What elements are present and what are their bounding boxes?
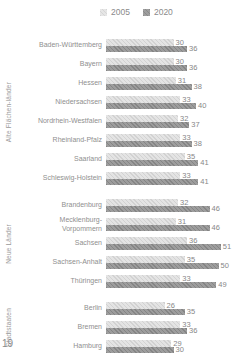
bar-pair: 3138: [106, 77, 202, 90]
bar-2020: [106, 122, 189, 129]
group-rows: Brandenburg3246Mecklenburg- Vorpommern31…: [16, 196, 240, 291]
bar-pair: 3341: [106, 172, 209, 185]
value-label-2020: 51: [223, 243, 231, 251]
bar-line: 51: [106, 244, 231, 251]
bar-pair: 3336: [106, 321, 197, 334]
value-label-2020: 30: [176, 346, 184, 354]
bar-line: 46: [106, 206, 220, 213]
bar-2020: [106, 141, 192, 148]
bar-line: 49: [106, 282, 227, 289]
state-row: Hessen3138: [16, 74, 240, 93]
group-gutter: Alte Flächen-länder: [0, 36, 16, 188]
state-label: Brandenburg: [16, 201, 106, 209]
group-rows: Baden-Württemberg3036Bayern3036Hessen313…: [16, 36, 240, 188]
bar-pair: 3651: [106, 237, 231, 250]
state-row: Sachsen-Anhalt3550: [16, 253, 240, 272]
state-row: Bremen3336: [16, 318, 240, 337]
state-label: Bayern: [16, 60, 106, 68]
bar-pair: 3237: [106, 115, 200, 128]
bar-2020: [106, 46, 187, 53]
value-label-2020: 35: [187, 308, 195, 316]
value-label-2020: 46: [212, 205, 220, 213]
value-label-2020: 41: [200, 159, 208, 167]
state-row: Niedersachsen3340: [16, 93, 240, 112]
state-label: Saarland: [16, 155, 106, 163]
bar-pair: 3036: [106, 39, 197, 52]
value-label-2020: 38: [194, 83, 202, 91]
state-row: Baden-Württemberg3036: [16, 36, 240, 55]
state-label: Sachsen-Anhalt: [16, 258, 106, 266]
group: Alte Flächen-länderBaden-Württemberg3036…: [0, 36, 240, 188]
legend-swatch-2005-icon: [100, 9, 107, 16]
bar-line: 37: [106, 122, 200, 129]
state-row: Rheinland-Pfalz3338: [16, 131, 240, 150]
state-label: Hamburg: [16, 342, 106, 350]
bar-2020: [106, 347, 174, 354]
chart: Alte Flächen-länderBaden-Württemberg3036…: [0, 36, 240, 356]
state-row: Mecklenburg- Vorpommern3146: [16, 215, 240, 234]
bar-pair: 3349: [106, 275, 227, 288]
value-label-2020: 37: [191, 121, 199, 129]
bar-pair: 3550: [106, 256, 229, 269]
state-label: Sachsen: [16, 239, 106, 247]
group-label: Neue Länder: [5, 224, 12, 264]
bar-line: 41: [106, 179, 209, 186]
bar-2020: [106, 225, 210, 232]
bar-2020: [106, 206, 210, 213]
state-label: Rheinland-Pfalz: [16, 136, 106, 144]
bar-2020: [106, 65, 187, 72]
bar-pair: 2635: [106, 302, 195, 315]
bar-pair: 3338: [106, 134, 202, 147]
state-label: Bremen: [16, 323, 106, 331]
state-label: Nordrhein-Westfalen: [16, 117, 106, 125]
state-row: Berlin2635: [16, 299, 240, 318]
value-label-2020: 36: [189, 327, 197, 335]
state-label: Schleswig-Holstein: [16, 174, 106, 182]
bar-line: 36: [106, 328, 197, 335]
bar-line: 40: [106, 103, 206, 110]
state-label: Thüringen: [16, 277, 106, 285]
bar-line: 30: [106, 347, 184, 354]
state-row: Bayern3036: [16, 55, 240, 74]
bar-pair: 3146: [106, 218, 220, 231]
bar-pair: 3541: [106, 153, 209, 166]
legend-swatch-2020-icon: [143, 9, 150, 16]
state-row: Sachsen3651: [16, 234, 240, 253]
legend-item-2005: 2005: [100, 7, 130, 17]
bar-line: 36: [106, 65, 197, 72]
state-row: Thüringen3349: [16, 272, 240, 291]
state-label: Baden-Württemberg: [16, 41, 106, 49]
bar-2020: [106, 84, 192, 91]
bar-2020: [106, 160, 198, 167]
bar-pair: 3246: [106, 199, 220, 212]
state-label: Berlin: [16, 304, 106, 312]
group-label: Alte Flächen-länder: [5, 82, 12, 142]
state-label: Niedersachsen: [16, 98, 106, 106]
bar-pair: 3340: [106, 96, 206, 109]
legend: 2005 2020: [100, 7, 240, 17]
bar-2020: [106, 244, 221, 251]
value-label-2020: 40: [198, 102, 206, 110]
bar-2020: [106, 309, 185, 316]
bar-2020: [106, 328, 187, 335]
bar-2020: [106, 263, 219, 270]
bar-pair: 3036: [106, 58, 197, 71]
bar-line: 46: [106, 225, 220, 232]
state-label: Mecklenburg- Vorpommern: [16, 216, 106, 232]
value-label-2020: 46: [212, 224, 220, 232]
bar-2020: [106, 282, 216, 289]
bar-line: 36: [106, 46, 197, 53]
page-number: 19: [2, 338, 13, 349]
group-rows: Berlin2635Bremen3336Hamburg2930: [16, 299, 240, 356]
group: StadtstaatenBerlin2635Bremen3336Hamburg2…: [0, 299, 240, 356]
legend-label-2005: 2005: [111, 7, 130, 17]
group: Neue LänderBrandenburg3246Mecklenburg- V…: [0, 196, 240, 291]
value-label-2020: 41: [200, 178, 208, 186]
bar-line: 38: [106, 141, 202, 148]
state-row: Hamburg2930: [16, 337, 240, 356]
bar-2020: [106, 103, 196, 110]
bar-2020: [106, 179, 198, 186]
group-gutter: Neue Länder: [0, 196, 16, 291]
bar-line: 50: [106, 263, 229, 270]
bar-pair: 2930: [106, 340, 184, 353]
